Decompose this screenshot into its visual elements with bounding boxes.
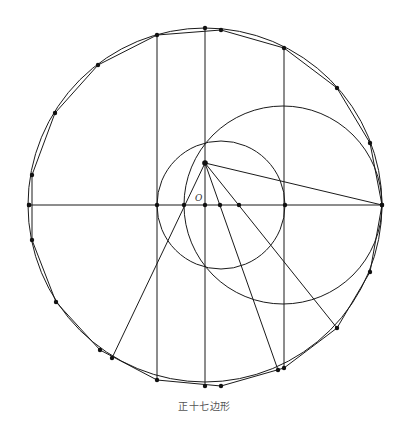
center-label-o: O — [195, 193, 203, 203]
point — [282, 46, 286, 50]
point — [30, 173, 34, 177]
point — [335, 326, 339, 330]
point — [203, 26, 207, 30]
point — [335, 86, 339, 90]
point — [282, 366, 286, 370]
point — [283, 203, 287, 207]
point — [27, 203, 31, 207]
construction-point-j — [202, 160, 208, 166]
regular-17-gon — [32, 30, 382, 386]
point — [218, 203, 222, 207]
point — [182, 203, 186, 207]
point — [203, 203, 207, 207]
point — [276, 368, 280, 372]
point — [219, 28, 223, 32]
diagram-caption: 正十七边形 — [0, 398, 409, 413]
point — [368, 270, 372, 274]
point — [96, 63, 100, 67]
point — [368, 141, 372, 145]
point — [155, 378, 159, 382]
construction-ray — [205, 163, 278, 370]
construction-ray — [205, 163, 382, 205]
point — [155, 33, 159, 37]
point — [155, 203, 159, 207]
point — [237, 203, 241, 207]
point — [98, 348, 102, 352]
heptadecagon-construction-diagram: O — [0, 0, 409, 432]
point — [110, 356, 114, 360]
point — [53, 111, 57, 115]
point — [380, 203, 384, 207]
point — [203, 384, 207, 388]
point — [30, 238, 34, 242]
point — [219, 384, 223, 388]
point — [54, 300, 58, 304]
polygon-outline — [32, 30, 382, 386]
